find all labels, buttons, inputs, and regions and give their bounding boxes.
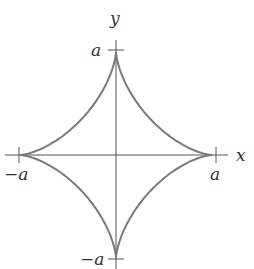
tick-label-x-positive: a <box>210 164 220 184</box>
x-axis-label: x <box>236 145 246 165</box>
tick-label-x-negative: −a <box>4 164 28 184</box>
tick-label-y-negative: −a <box>80 249 104 269</box>
y-axis-label: y <box>109 8 120 28</box>
tick-label-y-positive: a <box>91 40 101 60</box>
astroid-diagram: y x a −a −a a <box>0 0 254 269</box>
